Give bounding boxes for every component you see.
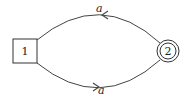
node-1: 1 — [13, 39, 37, 63]
automaton-diagram: a a 1 2 — [0, 0, 190, 99]
edge-label-bottom: a — [98, 84, 105, 97]
node-label: 2 — [165, 45, 172, 58]
edge-2-to-1: a — [37, 2, 160, 43]
node-2: 2 — [157, 40, 179, 62]
node-label: 1 — [22, 45, 29, 58]
edge-1-to-2: a — [37, 60, 160, 97]
edge-label-top: a — [96, 2, 103, 15]
